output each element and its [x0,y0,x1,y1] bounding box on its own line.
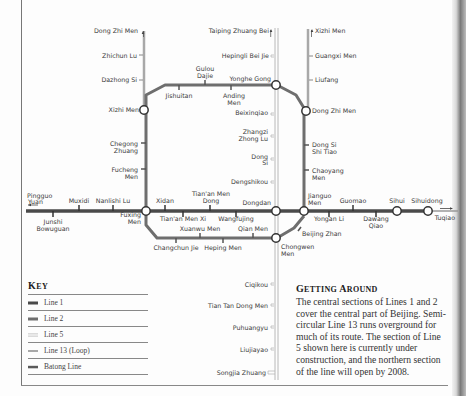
interchange-jianguomen [300,207,308,215]
line-1-swatch-icon [28,301,38,305]
key-title: KEY [28,280,148,295]
line-13-west [139,31,144,108]
label-liujiayao: Liujiayao [240,346,268,354]
label-wangfujing: Wangfujing [218,215,253,223]
interchange-fuxingmen [142,207,150,215]
key-item-line-5: Line 5 [28,327,148,343]
svg-text:Zhuang: Zhuang [114,147,138,155]
svg-text:Dajie: Dajie [197,72,213,80]
label-beixinqiao: Beixinqiao [235,109,268,117]
svg-text:Men: Men [227,99,240,106]
label-tiananmen-xi: Tian'an Men Xi [159,215,206,222]
key-item-line-2: Line 2 [28,311,148,327]
label-beijing-zhan: Beijing Zhan [302,230,342,238]
label-hepingli-bei-jie: Hepingli Bei Jie [222,52,269,60]
label-changchun-jie: Changchun Jie [153,244,198,252]
key-item-line-1: Line 1 [28,295,148,311]
label-yongan-li: Yongan Li [313,215,344,223]
interchange-chongwenmen [272,234,280,242]
svg-text:Shi Tiao: Shi Tiao [312,148,337,155]
label-tian-tan-dong-men: Tian Tan Dong Men [207,302,268,310]
svg-text:Yuan: Yuan [27,198,43,205]
label-tiananmen-dong: Tian'an Men [191,190,230,197]
label-qian-men: Qian Men [238,225,268,232]
label-liufang: Liufang [315,76,338,84]
line-2-swatch-icon [28,317,38,321]
interchange-dongzhimen [302,107,310,115]
label-muxidi: Muxidi [69,197,90,204]
label-yonghe-gong: Yonghe Gong [229,75,271,83]
label-sihui: Sihui [389,197,405,204]
label-dongdan: Dongdan [242,199,271,207]
batong-line [410,207,458,211]
line-5-swatch-icon [28,333,38,337]
svg-text:Men: Men [128,218,141,225]
svg-text:Dong: Dong [203,197,220,205]
line-13-swatch-icon [28,349,38,353]
label-dengshikou: Dengshikou [231,178,268,186]
label-dong-zhi-men-e: Dong Zhi Men [312,107,356,115]
svg-text:Qiao: Qiao [369,222,384,229]
label-nanlishi-lu: Nanlishi Lu [96,197,130,204]
interchange-xizhimen [140,106,148,114]
interchange-sihui [393,207,401,215]
label-sihuidong: Sihuidong [411,197,442,205]
label-guangxi-men: Guangxi Men [315,52,357,60]
svg-text:Men: Men [125,173,138,180]
key-item-line-13: Line 13 (Loop) [28,343,148,359]
key-item-batong: Batong Line [28,359,148,375]
label-gulou-dajie: Gulou [196,65,214,72]
line-13-east [308,29,313,110]
batong-swatch-icon [28,365,38,369]
label-xizhi-men-e: Xizhi Men [315,27,345,34]
label-jishuitan: Jishuitan [165,92,193,100]
label-tuqiao: Tuqiao [434,214,455,222]
label-zhichun-lu: Zhichun Lu [102,52,137,59]
map-key: KEY Line 1 Line 2 Line 5 Line 13 (Loop) … [28,280,148,375]
getting-around-title: GETTING AROUND [296,283,446,294]
svg-text:Zhong Lu: Zhong Lu [238,135,268,143]
label-dong-zhi-men-w: Dong Zhi Men [94,27,138,35]
getting-around-body: The central sections of Lines 1 and 2 co… [296,296,446,377]
interchange-yonghegong [272,81,280,89]
svg-text:Bowuguan: Bowuguan [36,225,69,233]
interchange-dongdan [272,207,280,215]
label-dazhong-si: Dazhong Si [101,76,137,84]
label-xidan: Xidan [156,197,174,204]
svg-text:Si: Si [262,159,268,166]
svg-text:Men: Men [312,174,325,181]
interchange-sihuidong [424,207,432,215]
svg-text:Men: Men [308,199,321,206]
label-songjia-zhuang: Songjia Zhuang [217,369,266,377]
label-heping-men: Heping Men [204,244,242,252]
getting-around-panel: GETTING AROUND The central sections of L… [296,283,446,377]
svg-text:Men: Men [281,250,294,257]
label-guomao: Guomao [340,197,367,204]
label-puhuangyu: Puhuangyu [233,324,268,332]
label-taiping-zhuang-bei: Taiping Zhuang Bei [208,27,269,35]
label-xizhi-men-w: Xizhi Men [109,106,139,113]
label-xuanwu-men: Xuanwu Men [180,225,221,232]
label-ciqikou: Ciqikou [245,281,268,289]
